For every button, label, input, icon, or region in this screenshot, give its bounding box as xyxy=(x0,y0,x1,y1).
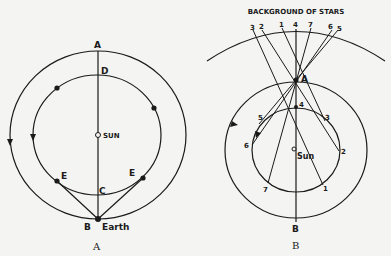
orbit-label-1: 1 xyxy=(323,185,328,193)
label-a: A xyxy=(94,40,101,50)
label-a: A xyxy=(301,74,308,84)
star-label-7: 7 xyxy=(308,21,313,29)
star-label-3: 3 xyxy=(250,24,255,32)
star-label-4: 4 xyxy=(293,21,298,29)
direction-arrow-outer xyxy=(7,139,13,146)
star-label-1: 1 xyxy=(279,21,284,29)
star-label-2: 2 xyxy=(259,23,264,31)
sun-icon xyxy=(96,133,101,138)
diagram-a: A D SUN C B Earth E E A xyxy=(7,40,186,252)
position-a-dot xyxy=(294,78,299,83)
label-b: B xyxy=(84,222,91,232)
caption-a: A xyxy=(92,241,101,252)
orbit-label-7: 7 xyxy=(263,186,268,194)
earth-icon xyxy=(95,216,101,222)
sightline-right xyxy=(98,178,143,219)
label-b: B xyxy=(292,224,299,234)
orbit-label-6: 6 xyxy=(244,142,249,150)
label-earth: Earth xyxy=(102,222,129,232)
label-sun: Sun xyxy=(297,152,314,161)
orbit-diagrams: A D SUN C B Earth E E A BACKGROUND OF ST… xyxy=(0,0,391,256)
sightline-left xyxy=(57,181,98,219)
caption-b: B xyxy=(292,240,299,251)
orbit-label-5: 5 xyxy=(258,114,263,122)
diagram-canvas: A D SUN C B Earth E E A BACKGROUND OF ST… xyxy=(0,0,391,256)
planet-position-4 xyxy=(294,105,298,109)
planet-upper-left xyxy=(54,85,59,90)
planet-upper-right xyxy=(151,105,156,110)
label-sun: SUN xyxy=(103,132,120,140)
star-label-6: 6 xyxy=(328,23,333,31)
direction-arrow-inner xyxy=(30,134,36,141)
stars-title: BACKGROUND OF STARS xyxy=(248,8,344,16)
label-c: C xyxy=(99,186,106,196)
orbit-label-4: 4 xyxy=(299,101,304,109)
orbit-label-3: 3 xyxy=(325,114,330,122)
label-e-left: E xyxy=(61,171,67,181)
label-e-right: E xyxy=(129,168,135,178)
orbit-label-2: 2 xyxy=(341,148,346,156)
label-d: D xyxy=(101,66,108,76)
planet-e-right xyxy=(140,175,145,180)
planet-e-left xyxy=(54,178,59,183)
star-label-5: 5 xyxy=(337,25,342,33)
diagram-b: BACKGROUND OF STARS 3 2 1 4 7 6 5 A B Su… xyxy=(207,8,385,251)
sun-icon xyxy=(292,147,296,151)
